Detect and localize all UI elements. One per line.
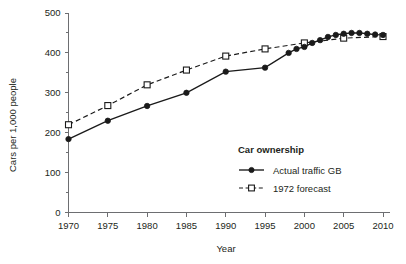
legend-title: Car ownership: [238, 144, 304, 155]
filled-circle-icon: [249, 167, 254, 172]
data-point: [105, 103, 111, 109]
data-point: [66, 122, 72, 128]
y-axis-ticks: [65, 13, 69, 213]
data-point: [184, 90, 189, 95]
y-tick-label: 0: [55, 207, 60, 218]
data-point: [380, 32, 385, 37]
data-point: [349, 30, 354, 35]
line-chart: Cars per 1,000 people Year 0100200300400…: [0, 0, 406, 264]
legend-label-actual-traffic-gb: Actual traffic GB: [273, 165, 341, 176]
x-axis-tick-labels: 197019751980198519901995200020052010: [58, 220, 394, 231]
data-point: [183, 67, 189, 73]
y-tick-label: 300: [45, 87, 61, 98]
open-square-icon: [249, 185, 255, 191]
series-line-1972-forecast: [69, 37, 384, 125]
x-tick-label: 2000: [294, 220, 315, 231]
x-tick-label: 2010: [372, 220, 393, 231]
data-point: [223, 53, 229, 59]
x-tick-label: 1990: [215, 220, 236, 231]
data-point: [144, 103, 149, 108]
series-line-actual-traffic-gb: [69, 33, 384, 139]
chart-container: Cars per 1,000 people Year 0100200300400…: [0, 0, 406, 264]
data-point: [262, 46, 268, 52]
data-point: [144, 82, 150, 88]
legend-item-1972-forecast: 1972 forecast: [239, 183, 331, 194]
x-tick-label: 1995: [254, 220, 275, 231]
data-point: [341, 31, 346, 36]
data-point: [294, 46, 299, 51]
data-point: [286, 50, 291, 55]
data-point: [262, 65, 267, 70]
series-markers-actual-traffic-gb: [66, 30, 386, 142]
y-tick-label: 400: [45, 47, 61, 58]
data-point: [223, 69, 228, 74]
x-axis-title: Year: [216, 243, 235, 254]
y-tick-label: 500: [45, 7, 61, 18]
x-tick-label: 1980: [137, 220, 158, 231]
x-axis-ticks: [69, 213, 384, 217]
x-tick-label: 1970: [58, 220, 79, 231]
legend: Car ownership Actual traffic GB 1972 for…: [238, 144, 341, 194]
data-point: [325, 34, 330, 39]
x-tick-label: 1985: [176, 220, 197, 231]
legend-item-actual-traffic-gb: Actual traffic GB: [239, 165, 341, 176]
x-tick-label: 2005: [333, 220, 354, 231]
legend-label-1972-forecast: 1972 forecast: [273, 183, 331, 194]
y-tick-label: 200: [45, 127, 61, 138]
data-point: [310, 40, 315, 45]
y-axis-tick-labels: 0100200300400500: [45, 7, 61, 218]
x-tick-label: 1975: [97, 220, 118, 231]
data-point: [372, 32, 377, 37]
data-point: [66, 136, 71, 141]
data-point: [317, 37, 322, 42]
data-point: [105, 118, 110, 123]
data-point: [357, 30, 362, 35]
y-tick-label: 100: [45, 167, 61, 178]
data-point: [302, 44, 307, 49]
y-axis-title: Cars per 1,000 people: [7, 78, 18, 172]
series-markers-1972-forecast: [66, 34, 387, 128]
data-point: [333, 32, 338, 37]
data-point: [365, 31, 370, 36]
